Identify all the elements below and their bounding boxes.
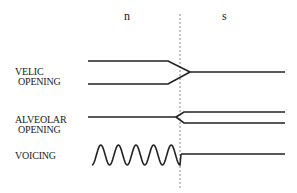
gestural-diagram [0,0,297,193]
voicing-wave [92,145,181,165]
velic-lower-line [88,72,190,84]
alveolar-lower-line [176,117,285,123]
velic-upper-line [88,61,190,72]
alveolar-upper-line [176,112,285,117]
